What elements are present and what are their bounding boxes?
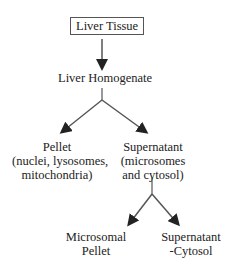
microsomal-pellet-node: Microsomal Pellet bbox=[64, 230, 128, 258]
pellet-label: Pellet bbox=[12, 140, 102, 154]
cytosol-line1: Supernatant bbox=[158, 230, 224, 244]
supernatant-label: Supernatant bbox=[114, 140, 192, 154]
liver-homogenate-node: Liver Homogenate bbox=[58, 71, 152, 85]
microsomal-line2: Pellet bbox=[64, 244, 128, 258]
microsomal-line1: Microsomal bbox=[64, 230, 128, 244]
pellet-node: Pellet (nuclei, lysosomes, mitochondria) bbox=[12, 140, 102, 182]
pellet-sub2: mitochondria) bbox=[12, 168, 102, 182]
supernatant-node: Supernatant (microsomes and cytosol) bbox=[114, 140, 192, 182]
liver-tissue-node: Liver Tissue bbox=[70, 17, 144, 35]
pellet-sub1: (nuclei, lysosomes, bbox=[12, 154, 102, 168]
cytosol-line2: -Cytosol bbox=[158, 244, 224, 258]
supernatant-sub1: (microsomes bbox=[114, 154, 192, 168]
supernatant-sub2: and cytosol) bbox=[114, 168, 192, 182]
cytosol-node: Supernatant -Cytosol bbox=[158, 230, 224, 258]
arrows bbox=[0, 0, 232, 268]
